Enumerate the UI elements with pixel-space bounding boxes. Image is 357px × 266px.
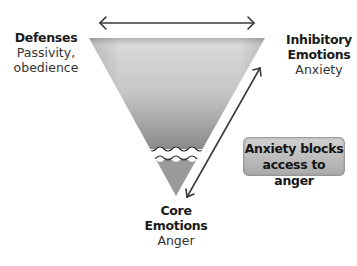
core-emotions-label: Core Emotions Anger — [136, 203, 216, 248]
inhibitory-example: Anxiety — [282, 62, 356, 77]
core-heading-1: Core — [136, 203, 216, 218]
defenses-heading: Defenses — [2, 30, 90, 45]
core-example: Anger — [136, 233, 216, 248]
inhibitory-heading-1: Inhibitory — [282, 32, 356, 47]
defenses-line-1: Passivity, — [2, 45, 90, 60]
defenses-line-2: obedience — [2, 60, 90, 75]
cutoff-caption-fragment — [0, 261, 357, 266]
callout-line-2: access to anger — [243, 157, 345, 189]
callout-line-1: Anxiety blocks — [243, 141, 345, 157]
defenses-label: Defenses Passivity, obedience — [2, 30, 90, 75]
anxiety-callout-box: Anxiety blocks access to anger — [243, 137, 345, 176]
inhibitory-emotions-label: Inhibitory Emotions Anxiety — [282, 32, 356, 77]
inhibitory-heading-2: Emotions — [282, 47, 356, 62]
double-arrow-icon — [100, 17, 254, 29]
triangle-upper — [80, 36, 280, 149]
core-heading-2: Emotions — [136, 218, 216, 233]
triangle-of-conflict-diagram: Defenses Passivity, obedience Inhibitory… — [0, 0, 357, 266]
